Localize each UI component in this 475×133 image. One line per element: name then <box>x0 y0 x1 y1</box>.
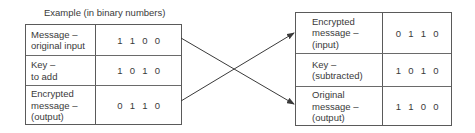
crossing-arrows <box>0 0 475 133</box>
arrow-original-to-decrypted <box>181 38 294 104</box>
arrow-encrypted-to-input <box>181 33 294 101</box>
